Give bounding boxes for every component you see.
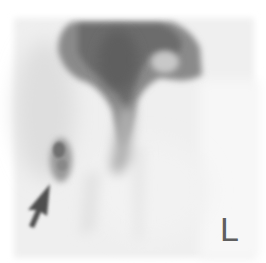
side-marker-left: L	[220, 212, 239, 246]
focal-uptake-lesion	[50, 138, 72, 182]
